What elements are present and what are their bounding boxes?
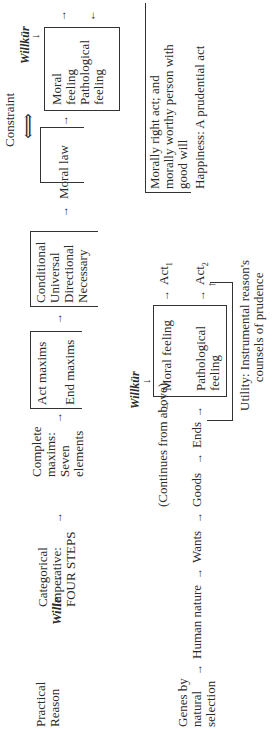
text-line: Genes by [176,678,190,727]
kant-practical-reason-diagram: Practical Reason Wille → Categorical Imp… [0,0,273,729]
utility-connector-bottom [232,283,233,421]
willkur-label: Willkür [18,26,32,64]
text-line: Utility: Instrumental reason's [238,260,252,411]
text-line: Universal [48,242,62,303]
end-maxims-label: End maxims [63,340,77,405]
goods-label: Goods [190,473,204,507]
text-line: Conditional [34,242,48,303]
text-line: Moral [50,40,64,105]
text-line: Pathological [194,326,208,391]
ends-label: Ends [190,422,204,448]
text-line: elements [72,426,86,477]
text-line: Practical [34,682,48,727]
arrow-right-icon: → [53,512,64,523]
text-line: good will [176,44,190,189]
human-nature-label: Human nature [190,585,204,659]
text-line: feeling [92,40,106,105]
text-line: morally worthy person with [162,44,176,189]
text-line: Reason [48,682,62,727]
feelings-list: Moral feeling Pathological feeling [50,40,106,105]
arrow-left-icon: ← [86,10,97,21]
text-line: Categorical [36,532,50,608]
text-line: Seven [58,426,72,477]
act1-label: Act1 [157,262,177,285]
arrow-right-icon: → [193,512,204,523]
double-arrow-icon: ⟺ [21,113,35,139]
text-line: Morally right act; and [148,44,162,189]
constraint-label: Constraint [3,93,17,147]
properties-list: Conditional Universal Directional Necess… [34,242,90,303]
text-line: feeling [208,326,222,391]
arrow-down-icon: ↓ [30,34,41,40]
arrow-right-icon: → [193,568,204,579]
text-line: selection [204,678,218,727]
morally-right-label: Morally right act; and morally worthy pe… [148,44,190,189]
text-line: Pathological [78,40,92,105]
arrow-right-icon: → [193,664,204,675]
arrow-right-icon: → [160,290,171,301]
happiness-label: Happiness: A prudential act [193,46,207,189]
pathological-feeling-label: Pathological feeling [194,326,222,391]
arrow-right-icon: → [196,290,207,301]
arrow-right-icon: → [53,412,64,423]
text-line: counsels of prudence [252,260,266,411]
complete-maxims-label: Complete maxims: Seven elements [30,426,86,477]
categorical-imperative-label: Categorical Imperative: FOUR STEPS [36,532,78,608]
arrow-right-icon: → [57,10,68,21]
moral-feeling-label: Moral feeling [160,320,174,391]
arrow-right-icon: → [160,400,171,411]
text-line: Directional [62,242,76,303]
text-line: Complete [30,426,44,477]
arrow-right-icon: → [59,206,70,217]
act2-subscript: 2 [201,262,210,266]
act-maxims-label: Act maxims [35,342,49,405]
wants-label: Wants [190,531,204,563]
arrow-right-icon: → [193,406,204,417]
moral-law-bracket [40,127,84,183]
arrow-right-icon: → [59,115,70,126]
text-line: feeling [64,40,78,105]
act1-text: Act [156,266,171,285]
utility-connector-left [207,420,233,421]
genes-label: Genes by natural selection [176,678,218,727]
text-line: Imperative: [50,532,64,608]
practical-reason-label: Practical Reason [34,682,62,727]
utility-label: Utility: Instrumental reason's counsels … [238,260,266,411]
text-line: FOUR STEPS [64,532,78,608]
arrow-up-icon: ↑ [206,282,217,288]
arrow-right-icon: → [53,313,64,324]
willkur-label-bottom: Willkür [128,371,142,409]
arrow-right-icon: → [193,453,204,464]
act1-subscript: 1 [165,262,174,266]
text-line: natural [190,678,204,727]
arrow-down-icon: ↓ [141,379,152,385]
text-line: maxims: [44,426,58,477]
text-line: Necessary [76,242,90,303]
